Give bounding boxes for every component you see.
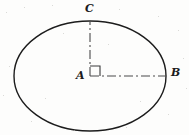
scan-texture — [3, 5, 187, 131]
figure-canvas — [0, 0, 189, 135]
vertex-label-a: A — [76, 70, 85, 81]
vertex-label-b: B — [171, 67, 180, 78]
ellipse-figure: C A B — [0, 0, 189, 135]
right-angle-marker-icon — [90, 66, 100, 76]
vertex-label-c: C — [85, 3, 94, 14]
